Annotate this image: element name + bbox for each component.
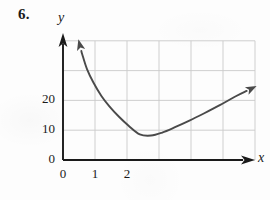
figure-container: 6. y x 20 10 0 0 1 2 bbox=[0, 0, 270, 200]
plot-canvas bbox=[0, 0, 270, 200]
data-curve bbox=[77, 39, 257, 135]
axes bbox=[59, 33, 255, 164]
grid-lines bbox=[63, 41, 255, 160]
curve-path bbox=[81, 51, 246, 136]
